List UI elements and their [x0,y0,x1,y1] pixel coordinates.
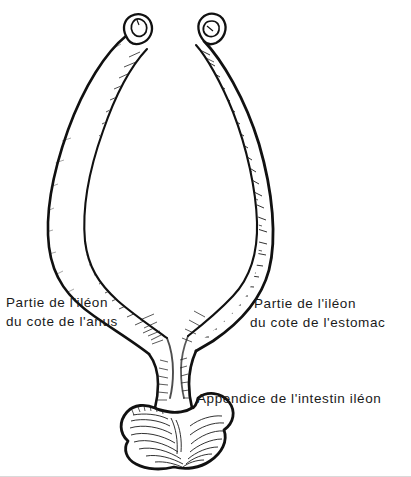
label-right-line1: Partie de l'iléon [254,294,356,313]
label-appendix: Appendice de l'intestin iléon [197,389,381,408]
left-cut-end-icon [124,14,152,44]
right-cut-end-icon [198,14,225,45]
label-right-line2: du cote de l'estomac [250,313,385,332]
y-junction [140,311,205,408]
label-left-line1: Partie de l'iléon [6,293,108,312]
anatomical-figure: Partie de l'iléon du cote de l'anus Part… [0,0,411,477]
label-left-line2: du cote de l'anus [6,312,118,331]
